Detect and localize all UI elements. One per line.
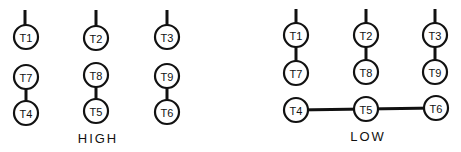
low-terminal-t9: T9: [423, 60, 447, 84]
high-group-label: HIGH: [78, 131, 119, 146]
terminal-label: T1: [290, 30, 303, 42]
high-terminal-t5: T5: [84, 99, 108, 123]
terminal-label: T8: [360, 67, 373, 79]
terminal-label: T5: [90, 106, 103, 118]
high-terminal-t8: T8: [84, 63, 108, 87]
terminal-label: T5: [360, 104, 373, 116]
high-terminal-t9: T9: [155, 64, 179, 88]
terminal-label: T2: [90, 33, 103, 45]
low-terminal-t8: T8: [354, 60, 378, 84]
wires-layer: [25, 9, 436, 113]
terminal-label: T9: [429, 67, 442, 79]
terminal-label: T4: [290, 105, 303, 117]
terminal-label: T6: [161, 107, 174, 119]
high-terminal-t4: T4: [14, 101, 38, 125]
low-terminal-t3: T3: [423, 23, 447, 47]
low-terminal-t6: T6: [424, 96, 448, 120]
low-terminal-t2: T2: [354, 23, 378, 47]
high-terminal-t2: T2: [84, 26, 108, 50]
terminal-label: T3: [161, 32, 174, 44]
wiring-diagram: T1T2T3T7T8T9T4T5T6T1T2T3T7T8T9T4T5T6 HIG…: [0, 0, 461, 152]
terminal-label: T4: [20, 108, 33, 120]
group-labels-layer: HIGH LOW: [78, 129, 386, 146]
high-terminal-t6: T6: [155, 100, 179, 124]
terminal-label: T7: [20, 72, 33, 84]
terminal-label: T6: [430, 103, 443, 115]
low-terminal-t7: T7: [284, 61, 308, 85]
high-terminal-t7: T7: [14, 65, 38, 89]
high-terminal-t3: T3: [155, 25, 179, 49]
terminal-label: T7: [290, 68, 303, 80]
terminal-label: T9: [161, 71, 174, 83]
low-terminal-t1: T1: [284, 23, 308, 47]
low-terminal-t5: T5: [354, 97, 378, 121]
high-terminal-t1: T1: [14, 25, 38, 49]
terminal-label: T8: [90, 70, 103, 82]
low-group-label: LOW: [350, 129, 386, 144]
terminal-label: T3: [429, 30, 442, 42]
terminal-label: T2: [360, 30, 373, 42]
low-terminal-t4: T4: [284, 98, 308, 122]
terminal-label: T1: [20, 32, 33, 44]
